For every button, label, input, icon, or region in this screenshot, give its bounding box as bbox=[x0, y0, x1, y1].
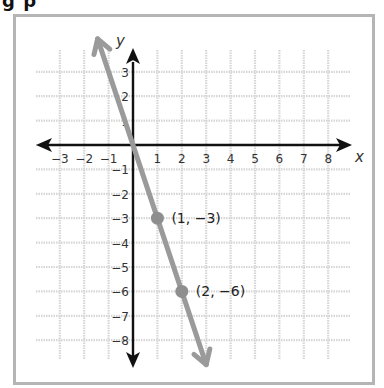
data-point-label: (2, −6) bbox=[196, 283, 245, 299]
y-tick-label: −3 bbox=[111, 212, 129, 226]
y-tick-label: −7 bbox=[111, 310, 129, 324]
y-tick-label: 3 bbox=[121, 66, 129, 80]
x-tick-label: 6 bbox=[276, 152, 284, 166]
x-tick-label: 4 bbox=[227, 152, 235, 166]
x-tick-label: 8 bbox=[324, 152, 332, 166]
y-axis-arrow-up-icon bbox=[126, 48, 140, 64]
data-point bbox=[175, 285, 188, 298]
y-axis-label: y bbox=[115, 32, 126, 50]
coordinate-graph: yx−3−2−112345678321−1−2−3−4−5−6−7−8(1, −… bbox=[0, 0, 384, 388]
y-tick-label: −6 bbox=[111, 285, 129, 299]
x-tick-label: −2 bbox=[75, 152, 93, 166]
y-tick-label: −4 bbox=[111, 237, 129, 251]
data-point bbox=[151, 212, 164, 225]
y-tick-label: −5 bbox=[111, 261, 129, 275]
x-axis-label: x bbox=[354, 148, 364, 166]
x-tick-label: −3 bbox=[51, 152, 69, 166]
data-point-label: (1, −3) bbox=[171, 210, 220, 226]
y-tick-label: 2 bbox=[121, 90, 129, 104]
x-tick-label: 2 bbox=[178, 152, 186, 166]
x-tick-label: 7 bbox=[300, 152, 308, 166]
y-tick-label: −1 bbox=[111, 163, 129, 177]
x-tick-label: 3 bbox=[202, 152, 210, 166]
x-tick-label: 5 bbox=[251, 152, 259, 166]
y-tick-label: −8 bbox=[111, 334, 129, 348]
x-tick-label: 1 bbox=[154, 152, 162, 166]
y-tick-label: −2 bbox=[111, 188, 129, 202]
